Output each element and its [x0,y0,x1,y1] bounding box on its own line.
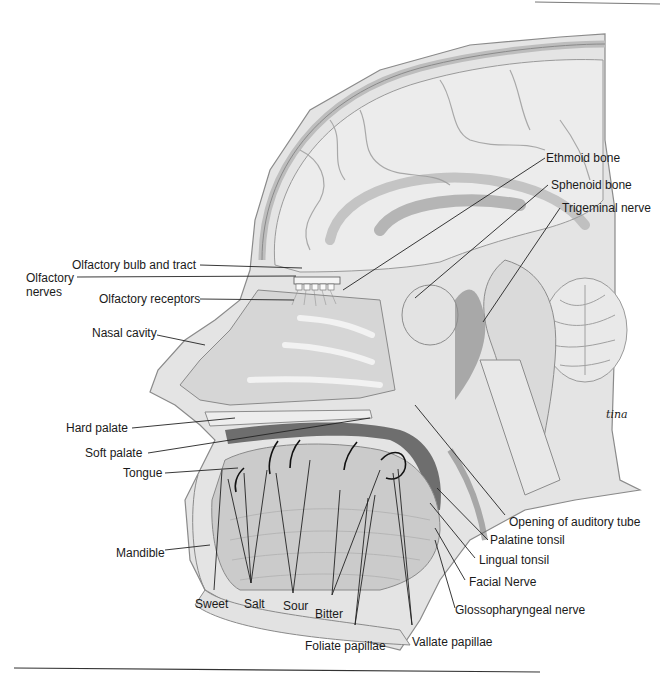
bottom-rule [14,668,540,672]
label-salt: Salt [244,597,265,611]
label-palatine-tonsil: Palatine tonsil [490,533,565,547]
label-opening-auditory-tube: Opening of auditory tube [509,515,640,529]
label-lingual-tonsil: Lingual tonsil [479,553,549,567]
label-trigeminal-nerve: Trigeminal nerve [562,201,651,215]
label-olfactory-nerves: Olfactory nerves [26,271,96,299]
label-tongue: Tongue [123,466,162,480]
label-olfactory-receptors: Olfactory receptors [99,292,200,306]
label-foliate-papillae: Foliate papillae [305,639,386,653]
label-olfactory-bulb-tract: Olfactory bulb and tract [72,258,196,272]
label-glossopharyngeal-nerve: Glossopharyngeal nerve [455,603,585,617]
head-sagittal-illustration: tina [0,0,670,681]
top-rule [535,2,660,4]
label-facial-nerve: Facial Nerve [469,575,536,589]
label-vallate-papillae: Vallate papillae [412,635,493,649]
label-nasal-cavity: Nasal cavity [92,326,157,340]
sphenoid-sinus [402,285,458,345]
label-sphenoid-bone: Sphenoid bone [551,178,632,192]
label-sweet: Sweet [195,597,228,611]
label-bitter: Bitter [315,607,343,621]
label-soft-palate: Soft palate [85,446,142,460]
label-hard-palate: Hard palate [66,421,128,435]
artist-signature: tina [606,408,628,421]
label-mandible: Mandible [116,546,165,560]
label-sour: Sour [283,599,308,613]
label-ethmoid-bone: Ethmoid bone [546,151,620,165]
